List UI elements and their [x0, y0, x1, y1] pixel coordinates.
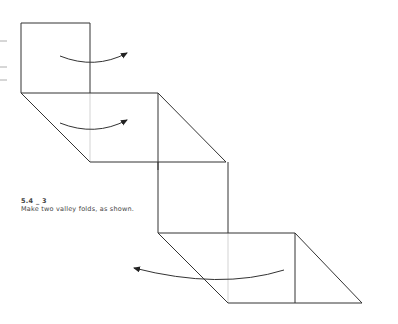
fold-arrow-top-icon: [60, 53, 127, 62]
fold-arrows: [60, 53, 284, 280]
step-caption: 5.4 _ 3 Make two valley folds, as shown.: [21, 197, 134, 213]
step-instruction: Make two valley folds, as shown.: [21, 205, 134, 213]
fold-arrow-bottom-icon: [134, 268, 284, 280]
step-number: 5.4 _ 3: [21, 197, 134, 205]
margin-marks: [0, 41, 7, 80]
fold-illustration: [0, 0, 398, 324]
fold-arrow-middle-icon: [60, 120, 127, 129]
paper-outline: [21, 23, 362, 303]
fold-diagram: 5.4 _ 3 Make two valley folds, as shown.: [0, 0, 398, 324]
